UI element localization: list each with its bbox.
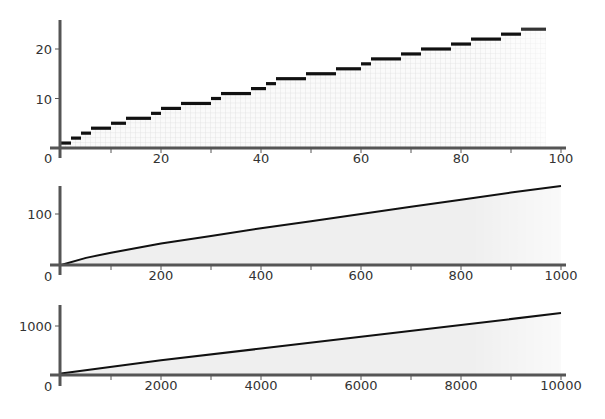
x-tick-labels: 2004006008001000 [149,268,578,283]
x-tick-label: 1000 [544,268,577,283]
y-tick-labels: 1020 [35,42,52,107]
x-tick-label: 2000 [144,378,177,393]
origin-label: 0 [44,151,52,166]
y-tick-label: 20 [35,42,52,57]
x-tick-label: 40 [253,151,270,166]
figure: 0 20406080100 1020 0 2004006008001000 10… [0,0,605,419]
x-tick-label: 8000 [444,378,477,393]
x-tick-label: 60 [353,151,370,166]
x-tick-labels: 200040006000800010000 [144,378,581,393]
y-tick-label: 1000 [19,319,52,334]
x-tick-label: 4000 [244,378,277,393]
x-tick-label: 400 [249,268,274,283]
x-tick-label: 800 [449,268,474,283]
y-tick-labels: 100 [27,207,52,222]
panel-step-chart: 0 20406080100 1020 [35,20,573,166]
x-tick-label: 80 [453,151,470,166]
line-fill-area [61,186,561,265]
y-tick-label: 10 [35,92,52,107]
x-tick-label: 20 [153,151,170,166]
y-tick-labels: 1000 [19,319,52,334]
x-tick-label: 6000 [344,378,377,393]
panel-line-chart-10000: 0 200040006000800010000 1000 [19,305,582,394]
origin-label: 0 [44,379,52,394]
x-tick-label: 10000 [540,378,581,393]
y-tick-label: 100 [27,207,52,222]
x-tick-label: 200 [149,268,174,283]
x-tick-label: 100 [549,151,574,166]
origin-label: 0 [44,269,52,284]
x-tick-labels: 20406080100 [153,151,574,166]
x-tick-label: 600 [349,268,374,283]
panel-line-chart-1000: 0 2004006008001000 100 [27,186,577,284]
step-fill-area [61,29,546,148]
